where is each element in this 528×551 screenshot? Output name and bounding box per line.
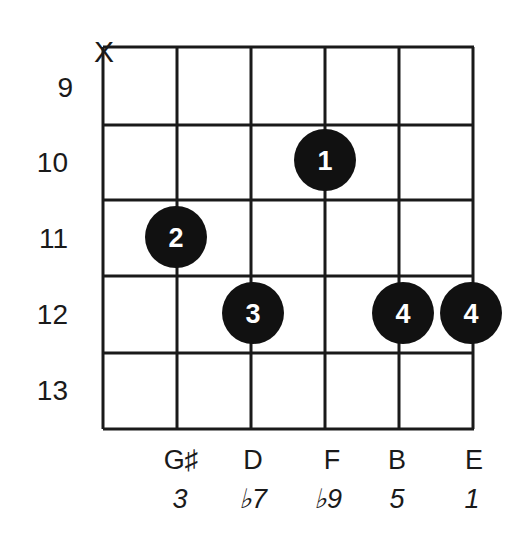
fret-number-9: 9 <box>57 72 73 103</box>
interval-label: ♭9 <box>314 484 342 514</box>
interval-label: ♭7 <box>239 484 268 514</box>
finger-number: 1 <box>317 146 332 176</box>
note-label: D <box>243 445 263 475</box>
finger-number: 4 <box>463 299 478 329</box>
interval-label: 1 <box>464 484 479 514</box>
note-label: F <box>324 445 341 475</box>
finger-dot-4a: 4 <box>372 282 434 344</box>
finger-number: 2 <box>168 223 183 253</box>
finger-dot-2: 2 <box>145 206 207 268</box>
finger-number: 4 <box>395 299 410 329</box>
note-names: G♯ D F B E <box>164 445 483 475</box>
muted-string-marker: X <box>94 35 114 68</box>
fret-numbers: 9 10 11 12 13 <box>37 72 73 406</box>
fret-number-12: 12 <box>37 299 68 330</box>
fret-number-13: 13 <box>37 375 68 406</box>
finger-dot-4b: 4 <box>440 282 502 344</box>
interval-label: 3 <box>172 484 187 514</box>
finger-dot-3: 3 <box>222 282 284 344</box>
finger-number: 3 <box>245 299 260 329</box>
interval-label: 5 <box>389 484 405 514</box>
note-label: G♯ <box>164 445 199 475</box>
fret-number-11: 11 <box>39 223 68 254</box>
note-label: E <box>465 445 483 475</box>
finger-dot-1: 1 <box>294 129 356 191</box>
note-label: B <box>388 445 406 475</box>
interval-labels: 3 ♭7 ♭9 5 1 <box>172 484 479 514</box>
chord-diagram: X 9 10 11 12 13 1 2 3 4 4 G♯ D F B E 3 ♭… <box>0 0 528 551</box>
fret-number-10: 10 <box>37 147 68 178</box>
